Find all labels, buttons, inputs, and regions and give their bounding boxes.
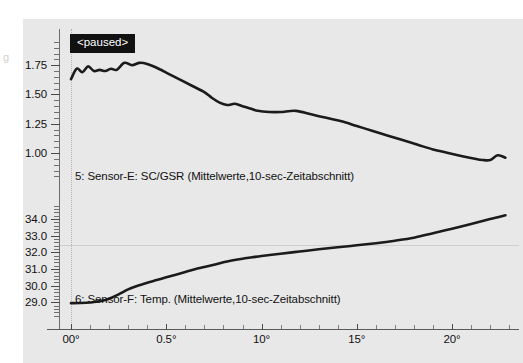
cropped-edge-glyph: g [3, 52, 9, 63]
series-curves [23, 19, 523, 363]
chart-panel: 1.751.501.251.0034.033.032.031.030.029.0… [23, 19, 523, 363]
curve-sensor-f-temp [71, 215, 505, 303]
series-label-sensor-e: 5: Sensor-E: SC/GSR (Mittelwerte,10-sec-… [75, 171, 354, 183]
status-badge-paused: <paused> [70, 34, 135, 53]
series-label-sensor-f: 6: Sensor-F: Temp. (Mittelwerte,10-sec-Z… [75, 294, 340, 306]
curve-sensor-e-gsr [71, 63, 505, 161]
chart-screenshot: g 1.751.501.251.0034.033.032.031.030.029… [0, 0, 523, 363]
